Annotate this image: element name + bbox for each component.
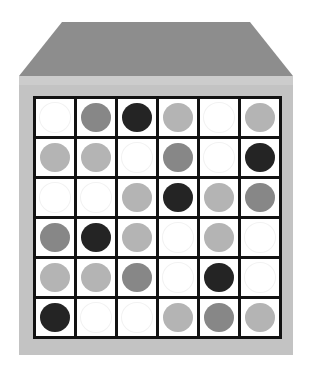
grid-cell[interactable] (159, 219, 197, 256)
grid-cell[interactable] (118, 179, 156, 216)
grid-cell[interactable] (118, 299, 156, 336)
disc-medium[interactable] (245, 183, 275, 212)
grid-cell[interactable] (36, 299, 74, 336)
grid-cell[interactable] (159, 299, 197, 336)
disc-grid[interactable] (33, 96, 282, 339)
disc-light[interactable] (245, 303, 275, 332)
disc-black[interactable] (81, 223, 111, 252)
grid-cell[interactable] (118, 219, 156, 256)
disc-light[interactable] (40, 263, 70, 292)
disc-black[interactable] (204, 263, 234, 292)
grid-cell[interactable] (118, 99, 156, 136)
disc-white[interactable] (162, 262, 194, 293)
disc-light[interactable] (81, 143, 111, 172)
grid-cell[interactable] (200, 179, 238, 216)
disc-white[interactable] (80, 302, 112, 333)
disc-white[interactable] (244, 262, 276, 293)
grid-cell[interactable] (159, 139, 197, 176)
grid-cell[interactable] (241, 139, 279, 176)
disc-medium[interactable] (40, 223, 70, 252)
grid-cell[interactable] (77, 299, 115, 336)
disc-medium[interactable] (81, 103, 111, 132)
disc-white[interactable] (121, 142, 153, 173)
grid-cell[interactable] (77, 179, 115, 216)
grid-cell[interactable] (241, 219, 279, 256)
grid-cell[interactable] (241, 259, 279, 296)
grid-cell[interactable] (241, 179, 279, 216)
disc-light[interactable] (122, 183, 152, 212)
grid-cell[interactable] (77, 259, 115, 296)
disc-light[interactable] (204, 223, 234, 252)
disc-light[interactable] (163, 103, 193, 132)
grid-cell[interactable] (200, 139, 238, 176)
disc-white[interactable] (203, 142, 235, 173)
disc-black[interactable] (122, 103, 152, 132)
disc-white[interactable] (80, 182, 112, 213)
disc-white[interactable] (203, 102, 235, 133)
disc-light[interactable] (245, 103, 275, 132)
disc-black[interactable] (40, 303, 70, 332)
disc-medium[interactable] (163, 143, 193, 172)
box-front-lip (19, 76, 293, 85)
grid-cell[interactable] (36, 179, 74, 216)
disc-white[interactable] (244, 222, 276, 253)
disc-light[interactable] (163, 303, 193, 332)
disc-black[interactable] (163, 183, 193, 212)
grid-cell[interactable] (118, 259, 156, 296)
disc-light[interactable] (81, 263, 111, 292)
grid-cell[interactable] (36, 139, 74, 176)
grid-cell[interactable] (36, 259, 74, 296)
disc-white[interactable] (121, 302, 153, 333)
grid-cell[interactable] (241, 299, 279, 336)
grid-cell[interactable] (200, 259, 238, 296)
disc-white[interactable] (39, 102, 71, 133)
disc-white[interactable] (39, 182, 71, 213)
grid-cell[interactable] (200, 299, 238, 336)
disc-light[interactable] (204, 183, 234, 212)
grid-cell[interactable] (118, 139, 156, 176)
grid-cell[interactable] (159, 259, 197, 296)
disc-white[interactable] (162, 222, 194, 253)
disc-black[interactable] (245, 143, 275, 172)
grid-cell[interactable] (36, 99, 74, 136)
grid-cell[interactable] (200, 99, 238, 136)
disc-light[interactable] (40, 143, 70, 172)
grid-cell[interactable] (36, 219, 74, 256)
disc-medium[interactable] (204, 303, 234, 332)
grid-cell[interactable] (77, 219, 115, 256)
grid-cell[interactable] (200, 219, 238, 256)
grid-cell[interactable] (159, 99, 197, 136)
disc-light[interactable] (122, 223, 152, 252)
grid-cell[interactable] (159, 179, 197, 216)
grid-cell[interactable] (77, 139, 115, 176)
scene-canvas (0, 0, 312, 379)
disc-medium[interactable] (122, 263, 152, 292)
box-3d (0, 0, 312, 379)
grid-cell[interactable] (241, 99, 279, 136)
grid-cell[interactable] (77, 99, 115, 136)
